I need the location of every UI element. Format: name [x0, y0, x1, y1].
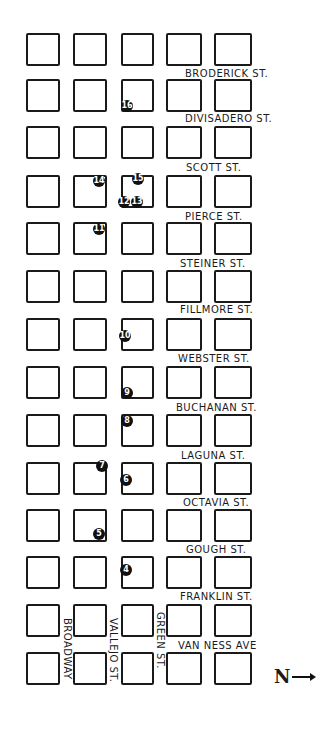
city-block: [121, 222, 154, 255]
city-block: [26, 366, 60, 399]
street-label: Pierce St.: [185, 211, 243, 222]
location-marker[interactable]: 7: [96, 460, 108, 472]
street-label: Van Ness Ave: [178, 640, 257, 651]
city-block: [73, 270, 107, 303]
city-block: [214, 175, 252, 208]
city-block: [166, 509, 202, 542]
city-block: [121, 270, 154, 303]
city-block: [73, 79, 107, 112]
city-block: [26, 462, 60, 495]
city-block: [214, 509, 252, 542]
city-block: [214, 318, 252, 351]
location-marker[interactable]: 13: [131, 196, 143, 208]
city-block: [166, 222, 202, 255]
city-block: [121, 652, 154, 685]
location-marker[interactable]: 4: [120, 564, 132, 576]
city-block: [73, 366, 107, 399]
city-block: [166, 33, 202, 66]
city-block: [214, 604, 252, 637]
city-block: [121, 604, 154, 637]
street-label: Steiner St.: [180, 258, 246, 269]
city-block: [166, 652, 202, 685]
city-block: [214, 366, 252, 399]
city-block: [214, 33, 252, 66]
location-marker[interactable]: 12: [118, 196, 130, 208]
location-marker[interactable]: 16: [121, 100, 133, 112]
city-block: [73, 652, 107, 685]
city-block: [214, 222, 252, 255]
street-label: Octavia St.: [183, 497, 249, 508]
city-block: [166, 79, 202, 112]
city-block: [214, 556, 252, 589]
street-label: Buchanan St.: [176, 402, 257, 413]
street-label: Divisadero St.: [185, 113, 272, 124]
street-label: Fillmore St.: [180, 304, 253, 315]
city-block: [166, 414, 202, 447]
city-block: [73, 414, 107, 447]
city-block: [26, 33, 60, 66]
city-block: [73, 33, 107, 66]
street-label: Laguna St.: [181, 450, 245, 461]
location-marker[interactable]: 14: [93, 175, 105, 187]
city-block: [26, 414, 60, 447]
location-marker[interactable]: 11: [93, 223, 105, 235]
city-block: [121, 509, 154, 542]
location-marker[interactable]: 15: [132, 173, 144, 185]
city-block: [73, 556, 107, 589]
street-label-vertical: Green St.: [155, 612, 166, 669]
city-block: [121, 126, 154, 159]
location-marker[interactable]: 10: [119, 330, 131, 342]
location-marker[interactable]: 8: [121, 415, 133, 427]
city-block: [166, 318, 202, 351]
street-label: Scott St.: [186, 162, 241, 173]
city-block: [166, 604, 202, 637]
city-block: [26, 604, 60, 637]
street-label: Gough St.: [186, 544, 246, 555]
street-label-vertical: Vallejo St.: [108, 618, 119, 682]
city-block: [166, 556, 202, 589]
street-label: Broderick St.: [185, 68, 268, 79]
city-block: [166, 270, 202, 303]
city-block: [166, 462, 202, 495]
city-block: [26, 318, 60, 351]
location-marker[interactable]: 6: [120, 474, 132, 486]
city-block: [26, 270, 60, 303]
city-block: [26, 79, 60, 112]
city-block: [73, 126, 107, 159]
city-block: [26, 222, 60, 255]
street-label-vertical: Broadway: [62, 618, 73, 680]
city-block: [166, 366, 202, 399]
street-label: Webster St.: [178, 353, 250, 364]
city-block: [73, 604, 107, 637]
city-block: [26, 126, 60, 159]
city-block: [26, 175, 60, 208]
city-block: [26, 509, 60, 542]
city-block: [214, 652, 252, 685]
city-block: [214, 126, 252, 159]
street-label: Franklin St.: [180, 591, 253, 602]
city-block: [214, 79, 252, 112]
north-arrow-icon: [292, 676, 314, 678]
city-block: [26, 652, 60, 685]
city-block: [73, 318, 107, 351]
city-block: [26, 556, 60, 589]
north-letter: N: [274, 668, 290, 686]
city-block: [166, 126, 202, 159]
city-block: [214, 414, 252, 447]
location-marker[interactable]: 5: [93, 528, 105, 540]
location-marker[interactable]: 9: [121, 387, 133, 399]
north-indicator: N: [274, 668, 314, 686]
city-block: [121, 33, 154, 66]
city-block: [166, 175, 202, 208]
city-block: [214, 270, 252, 303]
city-block: [214, 462, 252, 495]
